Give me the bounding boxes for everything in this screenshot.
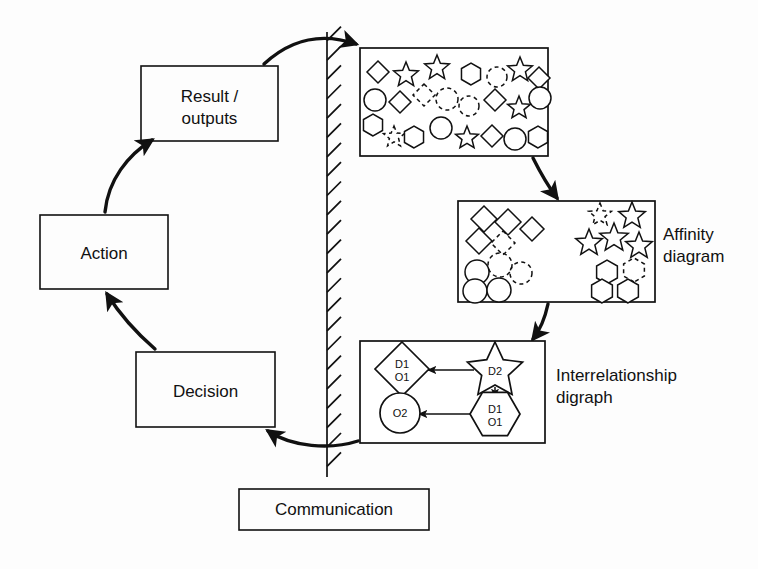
hatch-tick — [327, 162, 341, 176]
hatch-tick — [327, 65, 341, 79]
hatched-boundary-line — [327, 27, 341, 477]
hatch-tick — [327, 298, 341, 312]
raw-idea-circle-21 — [504, 128, 526, 150]
raw-idea-hexagon-3 — [461, 63, 480, 85]
hatch-tick — [327, 317, 341, 331]
interrelationship-digraph-caption-line2: digraph — [556, 388, 613, 407]
cycle-box-result-label-line2: outputs — [182, 109, 238, 128]
cycle-box-result-label-line1: Result / — [181, 87, 239, 106]
digraph-circle-node-label: O2 — [393, 407, 408, 419]
cycle-box-decision: Decision — [136, 352, 275, 427]
digraph-hexagon-node-label-line1: D1 — [488, 403, 502, 415]
cycle-box-decision-label: Decision — [173, 382, 238, 401]
digraph-diamond-node-label-line2: O1 — [395, 371, 410, 383]
hatch-tick — [327, 394, 341, 408]
panel-raw-ideas — [360, 48, 551, 156]
flow-arrow-raw-ideas-to-affinity — [533, 158, 557, 198]
hatch-tick — [327, 143, 341, 157]
raw-idea-circle-18 — [430, 117, 452, 139]
hatch-tick — [327, 201, 341, 215]
hatch-tick — [327, 46, 341, 60]
raw-idea-hexagon-17 — [404, 126, 423, 148]
panel-interrelationship-digraph: D1O1D2O2D1O1 Interrelationship digraph — [360, 341, 677, 443]
hatch-tick — [327, 259, 341, 273]
hatch-tick — [327, 278, 341, 292]
hatch-tick — [327, 414, 341, 428]
interrelationship-digraph-caption-line1: Interrelationship — [556, 366, 677, 385]
cycle-boxes: Result /outputsActionDecision — [40, 66, 278, 427]
hatch-tick — [327, 85, 341, 99]
affinity-item-circle-8 — [463, 279, 487, 303]
affinity-diagram-caption-line1: Affinity — [663, 225, 714, 244]
cycle-box-action-label: Action — [80, 244, 127, 263]
cycle-box-result: Result /outputs — [141, 66, 278, 141]
hatch-tick — [327, 375, 341, 389]
digraph-circle-node: O2 — [380, 393, 420, 433]
raw-idea-circle-7 — [364, 89, 386, 111]
hatch-ticks — [327, 27, 341, 467]
hatch-tick — [327, 220, 341, 234]
hatch-tick — [327, 123, 341, 137]
hatch-tick — [327, 181, 341, 195]
panel-affinity-diagram: Affinity diagram — [458, 201, 724, 303]
raw-idea-circle-14 — [529, 87, 551, 109]
digraph-star-node-label: D2 — [488, 365, 502, 377]
communication-box: Communication — [239, 489, 429, 530]
flow-arrow-decision-to-action — [107, 294, 155, 349]
cycle-box-action: Action — [40, 215, 168, 289]
communication-box-label: Communication — [275, 500, 393, 519]
hatch-tick — [327, 336, 341, 350]
diagram-canvas: Result /outputsActionDecision Communicat… — [0, 0, 758, 569]
raw-idea-hexagon-22 — [528, 126, 547, 148]
digraph-hexagon-node-label-line2: O1 — [488, 416, 503, 428]
hatch-tick — [327, 452, 341, 466]
affinity-item-circle-9 — [487, 278, 511, 302]
flow-arrow-action-to-result — [105, 140, 152, 212]
flow-arrow-affinity-to-digraph — [533, 304, 548, 339]
flow-arrow-result-to-raw-ideas — [264, 39, 356, 64]
affinity-diagram-caption-line2: diagram — [663, 247, 724, 266]
hatch-tick — [327, 356, 341, 370]
digraph-diamond-node-label-line1: D1 — [395, 358, 409, 370]
flow-arrow-digraph-to-decision — [268, 431, 358, 446]
affinity-item-hexagon-18 — [618, 279, 639, 303]
hatch-tick — [327, 104, 341, 118]
affinity-item-hexagon-17 — [592, 279, 613, 303]
raw-idea-hexagon-15 — [363, 114, 382, 136]
hatch-tick — [327, 240, 341, 254]
